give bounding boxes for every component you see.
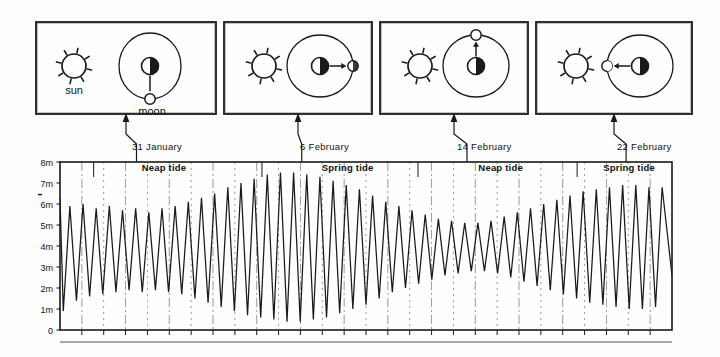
region-label-2: Spring tide <box>322 162 374 173</box>
tide-chart: 8m7m6m5m4m3m2m1m0Neap tideSpring tideNea… <box>38 158 672 343</box>
moon-label: moon <box>138 105 166 117</box>
region-annotations: Neap tideSpring tideNeap tideSpring tide <box>94 162 655 177</box>
y-tick-label-4: 4m <box>40 242 53 252</box>
figure-canvas: sunmoon8m7m6m5m4m3m2m1m0Neap tideSpring … <box>0 0 720 357</box>
sun-ray <box>423 48 424 52</box>
panel-4-border-inner <box>538 24 691 113</box>
region-label-3: Neap tide <box>478 162 523 173</box>
region-label-1: Neap tide <box>142 162 187 173</box>
region-label-4: Spring tide <box>603 162 655 173</box>
earth <box>632 58 649 75</box>
y-tick-label-3: 5m <box>40 221 53 231</box>
moon <box>471 30 481 40</box>
sun-ray <box>81 77 83 81</box>
moon <box>348 61 358 71</box>
y-tick-label-5: 3m <box>40 263 53 273</box>
sun-ray <box>260 79 261 83</box>
panel-3-border-inner <box>382 24 527 113</box>
sun-ray <box>271 77 273 81</box>
y-tick-label-1: 7m <box>40 179 53 189</box>
sun-ray <box>85 56 89 58</box>
moon <box>145 94 155 104</box>
connector-arrowhead <box>341 63 346 69</box>
earth <box>142 58 159 75</box>
panel-4 <box>536 22 692 114</box>
date-labels: 31 January6 February14 February22 Februa… <box>132 141 672 152</box>
sun-ray <box>433 69 437 70</box>
earth-shadow <box>640 58 648 75</box>
sun-ray <box>77 48 78 52</box>
x-axis <box>60 330 672 342</box>
sun-ray <box>277 69 281 70</box>
connector-path <box>298 118 302 162</box>
moon-disc <box>145 94 155 104</box>
y-tick-label-7: 1m <box>40 305 53 315</box>
sun-disc <box>564 54 588 78</box>
y-tick-label-8: 0 <box>48 326 53 336</box>
sun-ray <box>246 62 250 63</box>
date-label-2: 6 February <box>300 141 349 152</box>
panel-1-border-inner <box>38 24 215 113</box>
sun-ray <box>566 51 568 55</box>
connector-path <box>454 118 467 162</box>
panel-1: sunmoon <box>36 22 216 117</box>
sun-ray <box>70 79 71 83</box>
moon <box>602 61 612 71</box>
sun-ray <box>589 69 593 70</box>
y-tick-label-6: 2m <box>40 284 53 294</box>
sun-ray <box>59 73 63 75</box>
diagram-panels: sunmoon <box>36 22 692 117</box>
date-connectors <box>123 113 626 162</box>
sun-ray <box>579 48 580 52</box>
sun-ray <box>416 79 417 83</box>
earth <box>468 58 485 75</box>
y-tick-label-0: 8m <box>40 158 53 168</box>
sun-ray <box>56 62 60 63</box>
connector-arrowhead <box>614 63 619 69</box>
date-label-1: 31 January <box>132 141 182 152</box>
sun-ray <box>410 51 412 55</box>
sun-ray <box>254 51 256 55</box>
sun-ray <box>249 73 253 75</box>
earth-moon-connector <box>330 63 347 69</box>
earth-shadow <box>320 58 328 75</box>
y-tick-label-2: 6m <box>40 200 53 210</box>
sun-ray <box>405 73 409 75</box>
panel-4-border <box>536 22 692 114</box>
sun-ray <box>558 62 562 63</box>
earth-shadow <box>476 58 484 75</box>
earth-moon-connector <box>473 42 479 57</box>
tide-figure: sunmoon8m7m6m5m4m3m2m1m0Neap tideSpring … <box>0 0 720 357</box>
panel-2 <box>224 22 372 114</box>
sun-ray <box>583 77 585 81</box>
date-label-4: 22 February <box>617 141 672 152</box>
sun-ray <box>572 79 573 83</box>
moon-disc <box>471 30 481 40</box>
date-connector-1 <box>123 113 137 162</box>
earth <box>312 58 329 75</box>
panel-3-border <box>380 22 528 114</box>
sun-ray <box>275 56 279 58</box>
sun-ray <box>427 77 429 81</box>
sun-disc <box>408 54 432 78</box>
sun-ray <box>402 62 406 63</box>
sun-disc <box>62 54 86 78</box>
date-label-3: 14 February <box>457 141 512 152</box>
sun-ray <box>64 51 66 55</box>
earth-shadow <box>150 58 158 75</box>
sun-ray <box>431 56 435 58</box>
sun-label: sun <box>65 84 83 96</box>
sun-ray <box>87 69 91 70</box>
date-connector-2 <box>295 113 302 162</box>
sun-disc <box>252 54 276 78</box>
sun-ray <box>587 56 591 58</box>
connector-path <box>126 118 137 162</box>
sun-ray <box>267 48 268 52</box>
earth-moon-connector <box>614 63 631 69</box>
connector-arrowhead <box>473 42 479 47</box>
date-connector-4 <box>611 113 627 162</box>
panel-3 <box>380 22 528 114</box>
y-axis: 8m7m6m5m4m3m2m1m0 <box>38 158 60 336</box>
date-connector-3 <box>451 113 467 162</box>
sun-ray <box>561 73 565 75</box>
